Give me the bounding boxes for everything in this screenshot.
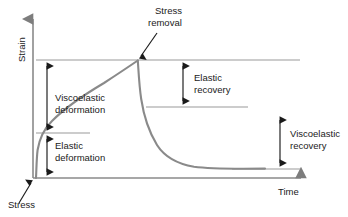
- elastic-deformation-label-line2: deformation: [55, 152, 105, 164]
- elastic-deformation-label-line1: Elastic: [55, 140, 83, 152]
- diagram-canvas: [0, 0, 348, 217]
- elastic-recovery-label-line2: recovery: [194, 84, 230, 96]
- creep-recovery-diagram: Strain Time Stress Stress removal Viscoe…: [0, 0, 348, 217]
- x-axis-label: Time: [278, 186, 299, 198]
- stress-label: Stress: [8, 199, 35, 211]
- stress-removal-label-line1: Stress: [155, 5, 182, 17]
- y-axis-label: Strain: [16, 37, 27, 62]
- stress-removal-label-line2: removal: [148, 17, 182, 29]
- stress-removal-pointer-arrow: [141, 33, 157, 56]
- elastic-recovery-label-line1: Elastic: [194, 72, 222, 84]
- viscoelastic-recovery-label-line1: Viscoelastic: [290, 128, 340, 140]
- viscoelastic-deformation-label-line1: Viscoelastic: [55, 92, 105, 104]
- viscoelastic-recovery-label-line2: recovery: [290, 140, 326, 152]
- viscoelastic-deformation-label-line2: deformation: [55, 104, 105, 116]
